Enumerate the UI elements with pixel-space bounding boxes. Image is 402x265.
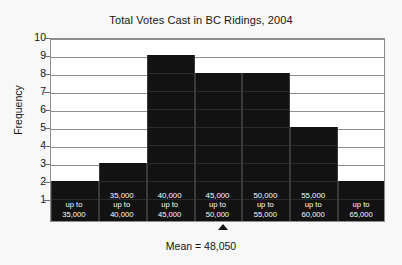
bar-inner-gridline: [100, 181, 146, 182]
bar-inner-gridline: [339, 199, 385, 200]
bar-inner-gridline: [196, 145, 242, 146]
y-tick-label-6: 6: [26, 104, 46, 115]
bar-inner-gridline: [196, 163, 242, 164]
chart-title: Total Votes Cast in BC Ridings, 2004: [0, 14, 402, 26]
bar-inner-gridline: [52, 199, 98, 200]
bar-inner-gridline: [100, 199, 146, 200]
bar-inner-gridline: [148, 127, 194, 128]
histogram-bar: [51, 181, 99, 221]
bar-inner-gridline: [148, 181, 194, 182]
bar-inner-gridline: [243, 181, 289, 182]
y-tick-label-3: 3: [26, 158, 46, 169]
bar-inner-gridline: [196, 127, 242, 128]
mean-marker-icon: [218, 224, 228, 230]
histogram-chart: Total Votes Cast in BC Ridings, 2004 Fre…: [0, 0, 402, 265]
plot-area: [50, 38, 385, 222]
histogram-bar: [290, 127, 338, 221]
histogram-bar: [242, 73, 290, 221]
mean-annotation-label: Mean = 48,050: [0, 240, 402, 252]
bar-inner-gridline: [148, 145, 194, 146]
y-tick-label-8: 8: [26, 68, 46, 79]
bar-inner-gridline: [196, 199, 242, 200]
histogram-bar: [99, 163, 147, 221]
bar-inner-gridline: [243, 91, 289, 92]
y-axis-label: Frequency: [12, 70, 24, 150]
bar-inner-gridline: [196, 181, 242, 182]
gridline-y-10: [51, 39, 384, 40]
bar-inner-gridline: [243, 163, 289, 164]
bar-inner-gridline: [148, 73, 194, 74]
y-tick-label-5: 5: [26, 122, 46, 133]
bar-inner-gridline: [148, 91, 194, 92]
bar-inner-gridline: [243, 199, 289, 200]
bar-inner-gridline: [196, 109, 242, 110]
bar-inner-gridline: [148, 199, 194, 200]
histogram-bar: [147, 55, 195, 221]
bar-inner-gridline: [291, 145, 337, 146]
bar-inner-gridline: [291, 181, 337, 182]
bar-inner-gridline: [291, 199, 337, 200]
gridline-y-9: [51, 57, 384, 58]
y-tick-label-4: 4: [26, 140, 46, 151]
histogram-bar: [338, 181, 385, 221]
bar-inner-gridline: [148, 163, 194, 164]
bar-inner-gridline: [243, 109, 289, 110]
bar-inner-gridline: [148, 109, 194, 110]
bar-inner-gridline: [196, 91, 242, 92]
y-tick-label-10: 10: [26, 32, 46, 43]
y-tick-label-7: 7: [26, 86, 46, 97]
histogram-bar: [195, 73, 243, 221]
y-tick-label-1: 1: [26, 194, 46, 205]
bar-inner-gridline: [243, 145, 289, 146]
bar-inner-gridline: [243, 127, 289, 128]
y-tick-label-9: 9: [26, 50, 46, 61]
y-tick-label-2: 2: [26, 176, 46, 187]
bar-inner-gridline: [291, 163, 337, 164]
